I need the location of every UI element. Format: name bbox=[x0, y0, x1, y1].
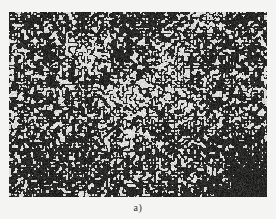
microstructure-texture bbox=[9, 12, 267, 197]
figure-caption: a) bbox=[0, 202, 276, 213]
micrograph-image bbox=[9, 12, 267, 197]
figure: a) bbox=[0, 0, 276, 219]
